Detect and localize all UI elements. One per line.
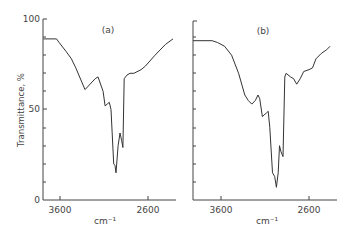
y-axis-label: Transmittance, % (16, 73, 26, 148)
y-ticks-a (43, 19, 47, 182)
y-ticks-b (193, 21, 197, 182)
y-tick-label-0: 0 (34, 195, 40, 205)
panel-b: 3600 2600 cm⁻¹ (b) (193, 21, 337, 226)
x-tick-label-3600-b: 3600 (210, 205, 233, 215)
panel-title-a: (a) (102, 25, 115, 35)
x-axis-label-b: cm⁻¹ (256, 216, 278, 226)
y-tick-label-50: 50 (29, 104, 41, 114)
x-tick-label-2600-a: 2600 (137, 205, 160, 215)
x-tick-label-3600-a: 3600 (49, 205, 72, 215)
x-tick-label-2600-b: 2600 (298, 205, 321, 215)
panel-a: 100 50 0 3600 2600 cm⁻¹ (a) Transmittanc… (16, 14, 176, 226)
ir-spectra-figure: 100 50 0 3600 2600 cm⁻¹ (a) Transmittanc… (0, 0, 353, 228)
y-tick-label-100: 100 (23, 14, 40, 24)
spectrum-curve-a (43, 39, 173, 173)
x-axis-label-a: cm⁻¹ (94, 216, 116, 226)
panel-title-b: (b) (257, 26, 270, 36)
spectrum-curve-b (193, 41, 330, 188)
